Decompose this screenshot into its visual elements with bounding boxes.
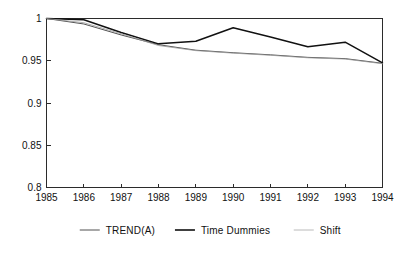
y-tick-label-4: 1 <box>36 13 42 24</box>
series-line-trend-a <box>47 19 383 64</box>
x-tick-label-8: 1993 <box>334 192 357 203</box>
x-tick-label-5: 1990 <box>222 192 245 203</box>
x-tick-label-9: 1994 <box>371 192 394 203</box>
series-line-time-dummies <box>47 19 383 63</box>
legend-label-time-dummies: Time Dummies <box>201 225 270 236</box>
data-series-group <box>47 19 383 64</box>
legend-label-shift: Shift <box>320 225 341 236</box>
x-tick-label-0: 1985 <box>35 192 58 203</box>
y-axis-ticks <box>47 19 51 188</box>
x-axis-ticks <box>47 184 383 188</box>
chart-legend: TREND(A)Time DummiesShift <box>80 225 341 236</box>
y-axis-tick-labels: 0.80.850.90.951 <box>22 13 42 193</box>
x-tick-label-1: 1986 <box>73 192 96 203</box>
y-tick-label-2: 0.9 <box>28 98 42 109</box>
y-tick-label-1: 0.85 <box>22 140 42 151</box>
x-axis-tick-labels: 1985198619871988198919901991199219931994 <box>35 192 394 203</box>
x-tick-label-6: 1991 <box>259 192 282 203</box>
line-chart: 0.80.850.90.951 198519861987198819891990… <box>0 0 406 255</box>
y-tick-label-3: 0.95 <box>22 55 42 66</box>
x-tick-label-7: 1992 <box>297 192 320 203</box>
chart-figure: 0.80.850.90.951 198519861987198819891990… <box>0 0 406 255</box>
legend-label-trend-a: TREND(A) <box>106 225 155 236</box>
x-tick-label-3: 1988 <box>147 192 170 203</box>
series-line-shift <box>47 19 383 64</box>
x-tick-label-2: 1987 <box>110 192 133 203</box>
x-tick-label-4: 1989 <box>185 192 208 203</box>
